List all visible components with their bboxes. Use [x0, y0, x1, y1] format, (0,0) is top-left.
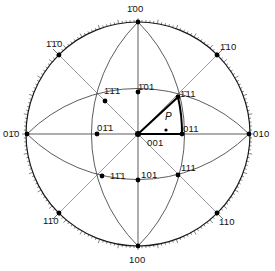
point-p-label: P: [165, 112, 172, 122]
pole-m1m10-label: 1̄1̄0: [46, 39, 62, 49]
pole-p010-label: 010: [253, 129, 269, 139]
pole-p110-marker: [215, 211, 220, 216]
pole-m100-marker: [136, 20, 141, 25]
pole-p1m11-marker: [100, 174, 105, 179]
degree-tick: [38, 190, 41, 192]
degree-tick: [38, 76, 41, 78]
pole-p111-label: 111: [181, 163, 196, 173]
degree-tick: [80, 34, 82, 37]
degree-tick: [235, 190, 238, 192]
pole-p1m11-label: 11̄1: [110, 171, 126, 181]
pole-p101-marker: [136, 178, 141, 183]
degree-tick: [194, 34, 196, 37]
pole-p001-marker: [135, 131, 141, 137]
pole-m111-label: 1̄11: [180, 89, 196, 99]
pole-m010-marker: [25, 132, 30, 137]
point-p-marker: [164, 128, 167, 131]
pole-m1m11-label: 1̄1̄1: [104, 86, 120, 96]
pole-p101-label: 101: [141, 170, 157, 180]
pole-p100-marker: [136, 244, 141, 249]
unit-triangle: [138, 97, 182, 134]
pole-p111-marker: [176, 173, 181, 178]
pole-p1m10-label: 11̄0: [43, 216, 59, 226]
pole-m1m10-marker: [57, 53, 62, 58]
degree-tick: [80, 231, 82, 234]
pole-m010-label: 01̄0: [3, 129, 19, 139]
pole-m011-label: 01̄1: [97, 123, 113, 133]
degree-tick: [194, 231, 196, 234]
pole-m110-marker: [215, 53, 220, 58]
pole-p001-label: 001: [147, 138, 163, 148]
pole-m101-label: 1̄01: [138, 82, 154, 92]
pole-p011-label: 011: [183, 124, 199, 134]
degree-tick: [235, 76, 238, 78]
pole-p010-marker: [247, 132, 252, 137]
pole-p110-label: 110: [219, 217, 235, 227]
pole-m110-label: 1̄10: [220, 42, 236, 52]
pole-p100-label: 100: [129, 255, 145, 265]
pole-m100-label: 1̄00: [127, 4, 143, 14]
pole-m1m11-marker: [103, 99, 108, 104]
